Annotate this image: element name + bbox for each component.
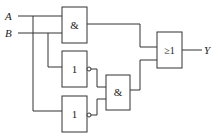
not-gate-2: 1 xyxy=(62,96,91,132)
wire-and1-to-or xyxy=(87,24,157,47)
logic-circuit-diagram: A B & 1 1 & xyxy=(0,0,218,139)
and-gate-2: & xyxy=(106,75,130,110)
input-b-label: B xyxy=(5,27,12,39)
input-a-label: A xyxy=(4,10,12,22)
or-gate-symbol: ≥1 xyxy=(164,45,175,56)
and-gate-2-symbol: & xyxy=(114,86,123,98)
and-gate-1: & xyxy=(62,7,87,43)
or-gate: ≥1 xyxy=(157,32,182,68)
output-y-label: Y xyxy=(204,44,212,56)
wire-not2-to-and2 xyxy=(91,99,106,115)
not-gate-2-bubble xyxy=(87,113,91,117)
wire-and2-to-or xyxy=(130,60,157,90)
wire-not1-to-and2 xyxy=(91,69,106,87)
wire-b-to-not1 xyxy=(48,33,62,67)
not-gate-2-symbol: 1 xyxy=(72,108,78,120)
not-gate-1: 1 xyxy=(62,51,91,87)
and-gate-1-symbol: & xyxy=(70,19,79,31)
not-gate-1-bubble xyxy=(87,67,91,71)
not-gate-1-symbol: 1 xyxy=(72,63,78,75)
